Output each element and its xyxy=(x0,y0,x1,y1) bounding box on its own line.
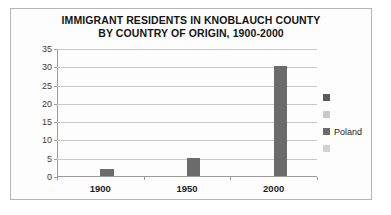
chart-title-line-2: BY COUNTRY OF ORIGIN, 1900-2000 xyxy=(11,27,371,40)
plot-area: 05101520253035 190019502000 xyxy=(57,49,317,177)
y-tick-mark xyxy=(54,49,57,50)
x-tick-mark xyxy=(230,177,231,180)
x-axis-line xyxy=(57,176,317,177)
x-tick-label: 1950 xyxy=(176,183,197,194)
y-tick-mark xyxy=(54,159,57,160)
y-tick-label: 5 xyxy=(47,154,52,164)
bar xyxy=(274,66,287,176)
legend-item[interactable] xyxy=(323,89,381,106)
y-tick-mark xyxy=(54,86,57,87)
chart-container: IMMIGRANT RESIDENTS IN KNOBLAUCH COUNTY … xyxy=(10,8,372,200)
chart-legend: Poland xyxy=(323,89,381,157)
y-tick-mark xyxy=(54,140,57,141)
chart-title-line-1: IMMIGRANT RESIDENTS IN KNOBLAUCH COUNTY xyxy=(11,14,371,27)
x-tick-mark xyxy=(317,177,318,180)
legend-swatch-icon xyxy=(323,111,330,118)
x-tick-mark xyxy=(57,177,58,180)
x-tick-label: 1900 xyxy=(90,183,111,194)
y-tick-label: 15 xyxy=(42,117,52,127)
y-tick-label: 20 xyxy=(42,99,52,109)
y-tick-label: 0 xyxy=(47,172,52,182)
legend-item[interactable]: Poland xyxy=(323,123,381,140)
bar xyxy=(100,169,113,176)
gridline xyxy=(57,49,317,50)
legend-item[interactable] xyxy=(323,106,381,123)
y-tick-mark xyxy=(54,104,57,105)
y-tick-label: 30 xyxy=(42,62,52,72)
legend-label: Poland xyxy=(334,127,362,137)
legend-swatch-icon xyxy=(323,128,330,135)
x-tick-mark xyxy=(144,177,145,180)
y-tick-mark xyxy=(54,67,57,68)
y-tick-label: 10 xyxy=(42,135,52,145)
legend-swatch-icon xyxy=(323,145,330,152)
bar xyxy=(187,158,200,176)
chart-title: IMMIGRANT RESIDENTS IN KNOBLAUCH COUNTY … xyxy=(11,14,371,40)
legend-item[interactable] xyxy=(323,140,381,157)
x-tick-label: 2000 xyxy=(263,183,284,194)
y-tick-mark xyxy=(54,122,57,123)
y-tick-label: 25 xyxy=(42,81,52,91)
y-tick-label: 35 xyxy=(42,44,52,54)
legend-swatch-icon xyxy=(323,94,330,101)
